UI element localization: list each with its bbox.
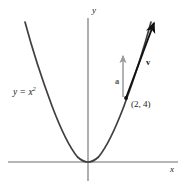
- velocity-vector-label: v: [146, 58, 150, 67]
- point-marker: [124, 96, 128, 100]
- curve-equation-label: y = x2: [13, 88, 36, 98]
- curve-equation-exponent: 2: [33, 85, 36, 92]
- y-axis-label: y: [92, 6, 96, 15]
- x-axis-label: x: [170, 165, 174, 174]
- curve-equation-base: y = x: [13, 87, 33, 97]
- point-coordinate-label: (2, 4): [131, 100, 151, 109]
- math-figure: y x y = x2 (2, 4) v a: [0, 0, 183, 194]
- acceleration-vector-label: a: [115, 77, 119, 86]
